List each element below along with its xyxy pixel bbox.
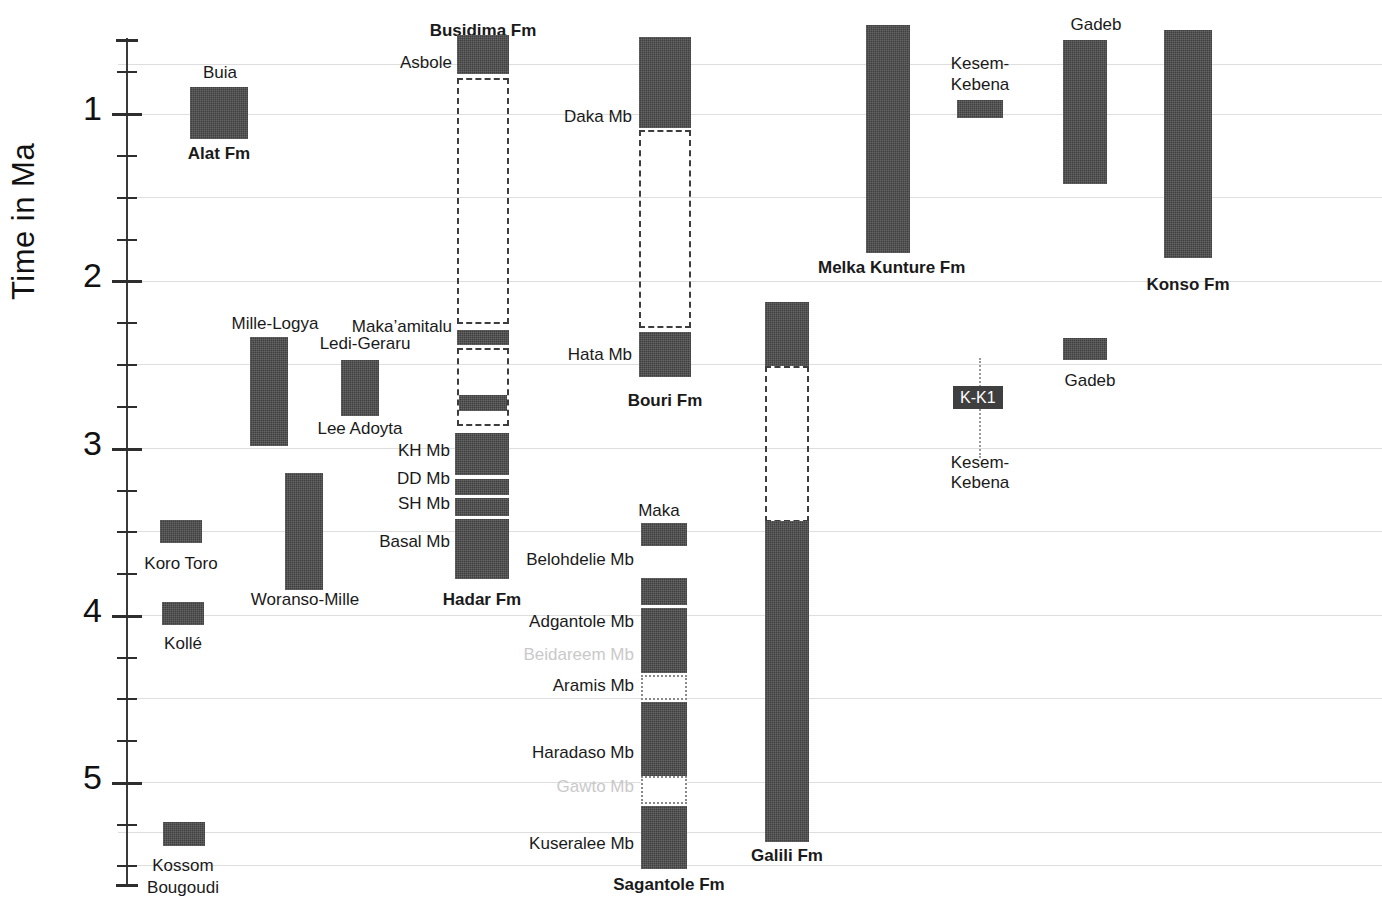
dashed-gap-busidima-upper: [457, 78, 509, 324]
block-maka: [641, 523, 687, 546]
block-hata-mb: [639, 332, 691, 377]
chip-k-k1: K-K1: [953, 386, 1003, 409]
axis-tick-label-1: 1: [62, 89, 102, 128]
label-maka: Maka: [604, 500, 714, 521]
label-kolle: Kollé: [133, 633, 233, 654]
axis-minor-tick: [117, 490, 137, 492]
label-sagantole-fm: Sagantole Fm: [604, 874, 734, 895]
label-lee-adoyta: Lee Adoyta: [300, 418, 420, 439]
label-kuseralee-mb: Kuseralee Mb: [506, 833, 634, 854]
block-belohdelie-mb: [641, 578, 687, 605]
axis-tick-3: [112, 448, 142, 451]
axis-tick-label-2: 2: [62, 256, 102, 295]
block-buia: [190, 87, 248, 139]
label-haradaso-mb: Haradaso Mb: [506, 742, 634, 763]
axis-minor-tick: [117, 740, 137, 742]
label-hadar-fm: Hadar Fm: [422, 589, 542, 610]
label-hata-mb: Hata Mb: [524, 344, 632, 365]
label-daka-mb: Daka Mb: [524, 106, 632, 127]
y-axis-title: Time in Ma: [6, 40, 42, 300]
axis-minor-tick: [117, 322, 137, 324]
block-woranso-mille: [285, 473, 323, 590]
block-galili-upper: [765, 302, 809, 366]
block-aramis-mb: [641, 702, 687, 787]
label-kossom-line1: Kossom: [128, 855, 238, 876]
block-sh-mb: [455, 498, 509, 516]
gridline-2_5: [118, 364, 1382, 365]
block-galili-lower: [765, 521, 809, 842]
axis-tick-top: [116, 39, 138, 42]
gridline-4_5: [118, 698, 1382, 699]
block-gawto-mb: [641, 776, 687, 804]
label-adgantole-mb: Adgantole Mb: [506, 611, 634, 632]
block-kossom-bougoudi: [163, 822, 205, 846]
label-woranso-mille: Woranso-Mille: [245, 589, 365, 610]
axis-minor-tick: [117, 531, 137, 533]
axis-minor-tick: [117, 197, 137, 199]
label-aramis-mb: Aramis Mb: [506, 675, 634, 696]
label-beidareem-mb: Beidareem Mb: [506, 644, 634, 665]
block-basal-mb: [455, 519, 509, 579]
axis-minor-tick: [117, 364, 137, 366]
axis-minor-tick: [117, 824, 137, 826]
block-koro-toro: [160, 520, 202, 543]
gridline-5_3: [118, 832, 1382, 833]
dashed-gap-bouri: [639, 130, 691, 328]
label-basal-mb: Basal Mb: [345, 531, 450, 552]
label-asbole: Asbole: [340, 52, 452, 73]
axis-minor-tick: [117, 239, 137, 241]
dashed-gap-galili: [765, 366, 809, 522]
block-busidima-lower: [459, 395, 507, 411]
axis-tick-4: [112, 615, 142, 618]
axis-minor-tick: [117, 71, 137, 73]
axis-tick-label-5: 5: [62, 758, 102, 797]
block-kh-mb: [455, 433, 509, 475]
block-dd-mb: [455, 479, 509, 495]
label-kossom-line2: Bougoudi: [128, 877, 238, 898]
block-kesem-kebena-upper: [957, 100, 1003, 118]
block-daka-mb: [639, 37, 691, 128]
label-buia: Buia: [170, 62, 270, 83]
axis-minor-tick: [117, 406, 137, 408]
block-gadeb-upper: [1063, 40, 1107, 184]
axis-tick-label-3: 3: [62, 424, 102, 463]
axis-minor-tick: [117, 155, 137, 157]
gridline-5_0: [118, 782, 1382, 783]
block-lee-adoyta: [341, 360, 379, 416]
dashed-gap-busidima-lower: [457, 348, 509, 426]
label-melka-kunture-fm: Melka Kunture Fm: [818, 257, 963, 278]
label-galili-fm: Galili Fm: [727, 845, 847, 866]
label-sh-mb: SH Mb: [350, 493, 450, 514]
block-konso: [1164, 30, 1212, 258]
label-gawto-mb: Gawto Mb: [506, 776, 634, 797]
block-makaamitalu: [457, 330, 509, 345]
axis-minor-tick: [117, 698, 137, 700]
block-melka-kunture: [866, 25, 910, 253]
axis-tick-2: [112, 280, 142, 283]
y-axis-line: [126, 38, 128, 886]
label-kh-mb: KH Mb: [350, 440, 450, 461]
block-kuseralee-mb: [641, 806, 687, 869]
gridline-4_0: [118, 615, 1382, 616]
label-dd-mb: DD Mb: [350, 468, 450, 489]
block-mille-logya: [250, 337, 288, 446]
axis-tick-label-4: 4: [62, 591, 102, 630]
label-gadeb-upper: Gadeb: [1041, 14, 1151, 35]
block-asbole: [457, 35, 509, 74]
axis-minor-tick: [117, 657, 137, 659]
label-konso-fm: Konso Fm: [1128, 274, 1248, 295]
axis-tick-5: [112, 782, 142, 785]
block-beidareem-mb: [641, 675, 687, 700]
label-makaamitalu: Maka’amitalu: [325, 316, 452, 337]
label-kesem-lower-line1: Kesem-: [930, 452, 1030, 473]
label-alat-fm: Alat Fm: [169, 143, 269, 164]
gridline-3_0: [118, 448, 1382, 449]
label-kesem-upper-line2: Kebena: [930, 74, 1030, 95]
label-kesem-upper-line1: Kesem-: [930, 53, 1030, 74]
label-mille-logya: Mille-Logya: [215, 313, 335, 334]
axis-tick-1: [112, 113, 142, 116]
block-adgantole-mb: [641, 608, 687, 673]
block-kolle: [162, 602, 204, 625]
label-bouri-fm: Bouri Fm: [605, 390, 725, 411]
label-gadeb-lower: Gadeb: [1035, 370, 1145, 391]
